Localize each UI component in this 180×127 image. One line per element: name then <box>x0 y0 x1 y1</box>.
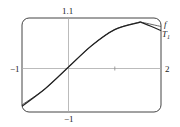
x-min-label: −1 <box>10 64 20 74</box>
plot-frame <box>22 18 161 112</box>
plot-canvas: −1 2 1.1 −1 f T1 <box>0 0 180 127</box>
curve-t1 <box>22 22 161 106</box>
x-max-label: 2 <box>165 64 170 74</box>
y-min-label: −1 <box>64 114 74 124</box>
legend-t-sub: 1 <box>167 34 170 40</box>
curve-f <box>22 22 161 105</box>
y-max-label: 1.1 <box>62 6 73 16</box>
legend-t: T1 <box>162 29 170 40</box>
legend-f: f <box>164 19 168 29</box>
